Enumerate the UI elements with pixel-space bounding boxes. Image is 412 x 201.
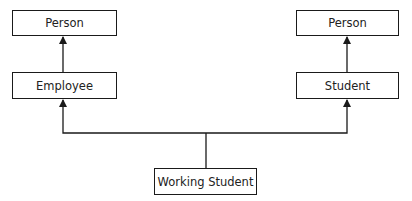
node-label: Student [325,79,370,93]
node-label: Person [45,16,84,30]
node-person-left: Person [12,10,117,36]
node-student: Student [296,72,399,99]
node-working-student: Working Student [154,168,257,195]
edge-working-student-branches [63,100,347,133]
arrowhead-icon [59,36,67,44]
arrowhead-icon [343,36,351,44]
node-label: Employee [36,79,93,93]
node-person-right: Person [296,10,399,36]
node-label: Person [328,16,367,30]
node-label: Working Student [158,175,254,189]
node-employee: Employee [12,72,117,99]
arrowhead-icon [59,99,67,107]
arrowhead-icon [343,99,351,107]
